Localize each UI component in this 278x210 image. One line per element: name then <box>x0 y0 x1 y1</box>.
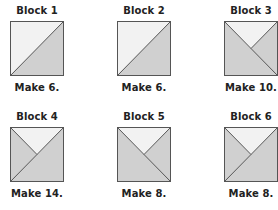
block-caption: Make 8. <box>214 188 278 199</box>
block-caption: Make 6. <box>0 82 74 93</box>
half-square-triangle-icon <box>10 21 64 76</box>
block-title: Block 2 <box>107 5 181 16</box>
block-title: Block 5 <box>107 111 181 122</box>
block-4: Block 4 Make 14. <box>0 106 106 206</box>
block-title: Block 1 <box>0 5 74 16</box>
block-2: Block 2 Make 6. <box>107 0 213 100</box>
block-title: Block 3 <box>214 5 278 16</box>
block-3: Block 3 Make 10. <box>214 0 278 100</box>
block-title: Block 4 <box>0 111 74 122</box>
block-title: Block 6 <box>214 111 278 122</box>
block-1: Block 1 Make 6. <box>0 0 106 100</box>
quarter-square-triangle-icon <box>10 127 64 182</box>
quarter-square-triangle-icon <box>117 127 171 182</box>
block-caption: Make 10. <box>214 82 278 93</box>
block-caption: Make 6. <box>107 82 181 93</box>
block-5: Block 5 Make 8. <box>107 106 213 206</box>
block-caption: Make 8. <box>107 188 181 199</box>
block-caption: Make 14. <box>0 188 74 199</box>
quarter-square-triangle-icon <box>224 21 278 76</box>
half-square-triangle-icon <box>117 21 171 76</box>
block-6: Block 6 Make 8. <box>214 106 278 206</box>
quarter-square-triangle-icon <box>224 127 278 182</box>
